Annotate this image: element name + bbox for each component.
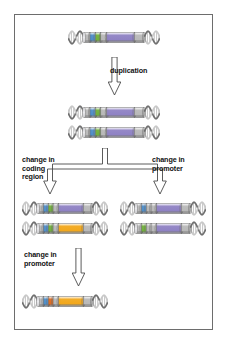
gene-final-gene-both-changes: [22, 293, 108, 310]
gene-promoter-change-gene-unchanged: [120, 200, 206, 217]
duplication-arrow: [108, 57, 121, 95]
gene-coding-change-gene-mutated: [22, 220, 108, 237]
gene-duplicate-gene-copy-1: [68, 104, 160, 121]
label-change-in-coding-region: change in coding region: [22, 156, 55, 182]
gene-duplicate-gene-copy-2: [68, 124, 160, 141]
label-change-in-promoter-bottom: change in promoter: [24, 251, 57, 268]
gene-promoter-change-gene-mutated: [120, 220, 206, 237]
label-change-in-promoter-right: change in promoter: [152, 156, 185, 173]
label-duplication: duplication: [110, 67, 147, 76]
gene-coding-change-gene-unchanged: [22, 200, 108, 217]
promoter-change-arrow: [72, 248, 85, 286]
gene-duplication-figure: duplication change in coding region chan…: [0, 0, 227, 344]
gene-ancestral-gene: [68, 29, 160, 46]
divergence-fork-arrow: [40, 148, 170, 194]
